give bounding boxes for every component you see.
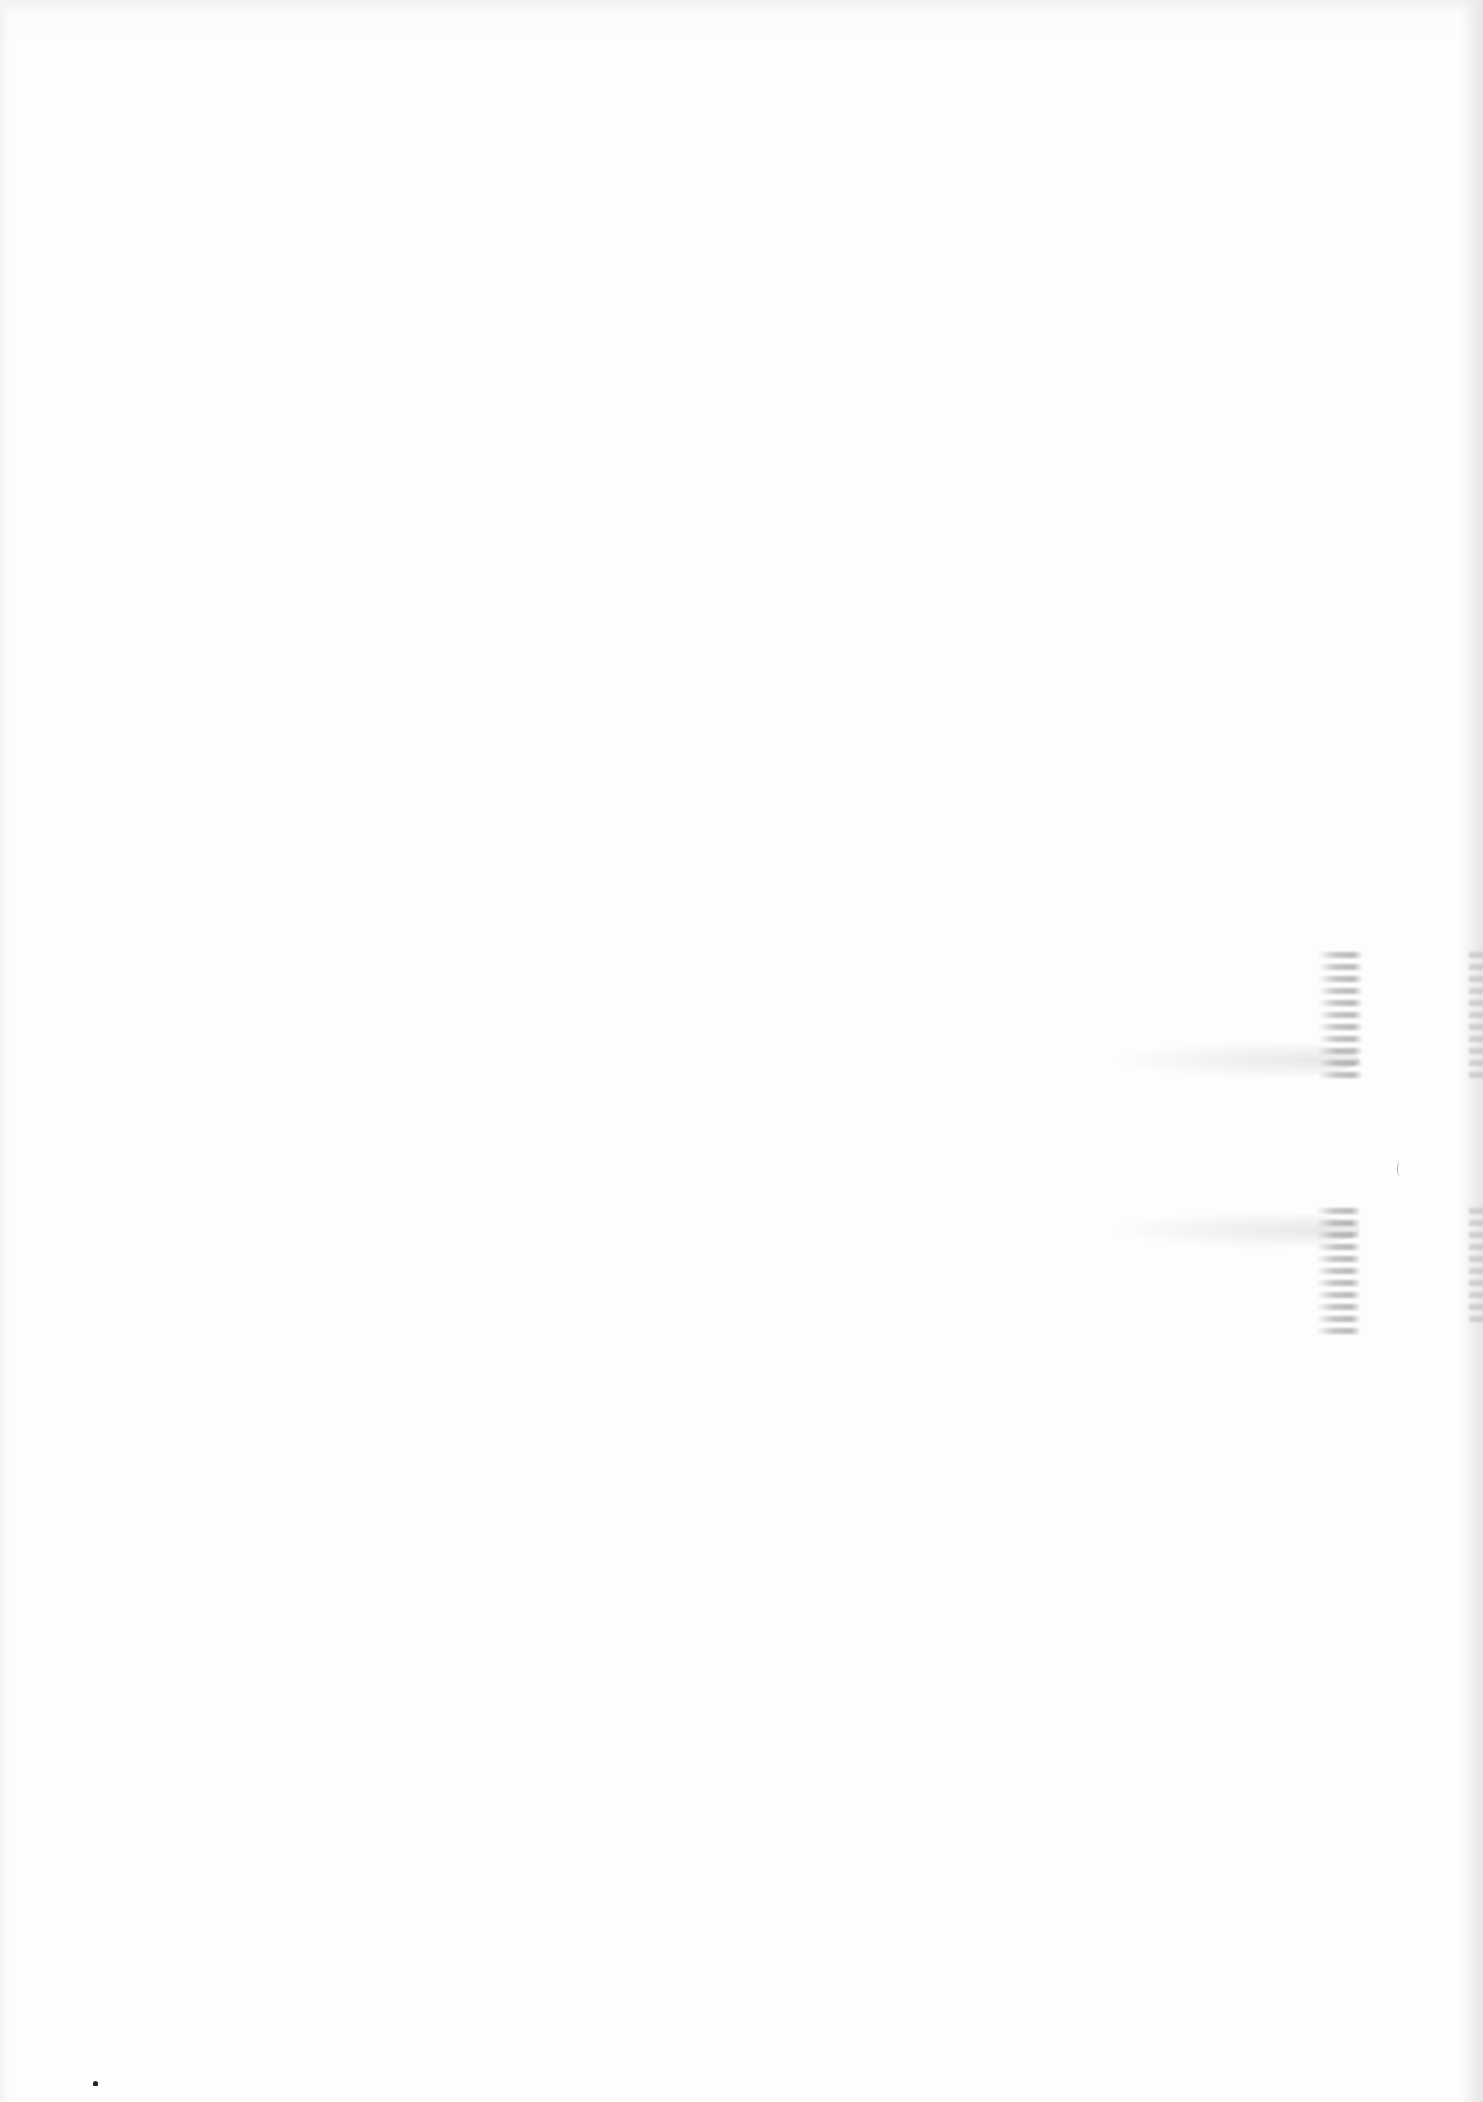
blank-page: [0, 0, 1483, 2102]
dust-speck: [93, 2081, 98, 2086]
stray-mark: [1397, 1162, 1402, 1176]
bleed-through-marks-lower: [1316, 1208, 1360, 1334]
edge-bleed-marks-lower: [1469, 1208, 1483, 1322]
bleed-through-marks-upper: [1318, 952, 1362, 1078]
edge-bleed-marks-upper: [1469, 952, 1483, 1078]
left-edge-shadow: [0, 0, 10, 2102]
